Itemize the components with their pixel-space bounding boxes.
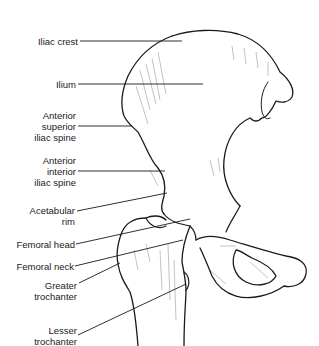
label-text: Femoral neck	[16, 261, 74, 272]
label-greater-trochanter: Greater trochanter	[34, 280, 77, 302]
leader-femoral-head	[76, 219, 190, 244]
label-text: Anterior	[34, 155, 76, 166]
acetabulum	[164, 206, 240, 240]
label-text: Greater	[34, 280, 77, 291]
label-iliac-crest: Iliac crest	[38, 36, 78, 47]
label-femoral-head: Femoral head	[16, 239, 75, 250]
leader-femoral-neck	[75, 240, 183, 266]
label-text: rim	[30, 216, 75, 227]
label-text: Anterior	[34, 110, 76, 121]
label-acetabular-rim: Acetabular rim	[30, 205, 75, 227]
ischium-outline	[196, 236, 306, 297]
label-text: interior	[34, 166, 76, 177]
leader-acetabular-rim	[77, 193, 167, 211]
label-asis: Anterior superior iliac spine	[34, 110, 76, 143]
femur-outline	[117, 216, 166, 346]
shading-hatch	[134, 46, 268, 320]
ilium-anterior-edge	[122, 36, 172, 214]
label-text: Ilium	[56, 79, 76, 90]
label-text: Lesser	[34, 325, 77, 336]
leader-greater-trochanter	[79, 263, 120, 283]
label-aiis: Anterior interior iliac spine	[34, 155, 76, 188]
label-text: iliac spine	[34, 177, 76, 188]
leader-lesser-trochanter	[78, 284, 186, 335]
label-femoral-neck: Femoral neck	[16, 261, 74, 272]
leader-lines	[75, 41, 203, 335]
label-text: trochanter	[34, 336, 77, 346]
label-text: Femoral head	[16, 239, 75, 250]
label-ilium: Ilium	[56, 79, 76, 90]
ilium-outline	[172, 30, 293, 206]
label-text: superior	[34, 121, 76, 132]
label-lesser-trochanter: Lesser trochanter	[34, 325, 77, 346]
label-text: iliac spine	[34, 132, 76, 143]
label-text: Acetabular	[30, 205, 75, 216]
obturator-foramen	[233, 250, 276, 285]
label-text: Iliac crest	[38, 36, 78, 47]
label-text: trochanter	[34, 291, 77, 302]
